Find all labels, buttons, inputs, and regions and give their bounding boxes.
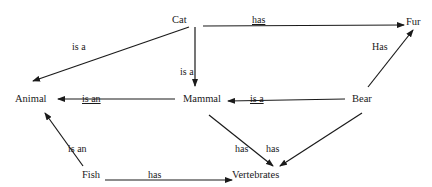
node-bear: Bear [352,94,372,105]
edge-label-bear-has-fur: Has [372,42,388,52]
edge-label-bear-has-vertebrates: has [266,144,279,154]
edge-bear-isa-mammal [228,99,345,101]
node-fur: Fur [406,17,421,28]
edge-cat-has-fur [203,25,404,26]
edge-label-cat-isa-mammal: is a [180,67,194,77]
edge-label-mammal-has-vertebrates: has [235,144,248,154]
edge-bear-has-vertebrates [280,113,362,166]
node-vertebrates: Vertebrates [232,170,279,181]
edge-label-cat-has-fur: has [252,15,265,25]
edge-label-cat-isa-animal: is a [72,42,86,52]
edge-label-fish-isan-animal: is an [68,144,87,154]
node-animal: Animal [15,94,47,105]
node-cat: Cat [172,15,187,26]
edge-label-bear-isa-mammal: is a [250,94,264,104]
edge-label-fish-has-vertebrates: has [148,170,161,180]
edge-bear-has-fur [368,30,413,87]
node-mammal: Mammal [183,94,221,105]
edge-label-mammal-isan-animal: is an [82,94,101,104]
edge-mammal-has-vertebrates [209,115,273,166]
node-fish: Fish [82,170,100,181]
edge-fish-isan-animal [45,113,83,166]
edge-cat-isa-animal [33,27,189,81]
